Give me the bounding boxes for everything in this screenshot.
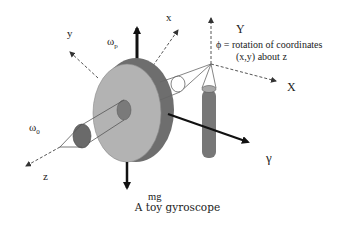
label-z: z: [43, 170, 48, 182]
z-axis: [26, 147, 60, 166]
support-pillar: [202, 86, 216, 159]
label-omega-0: ω0: [29, 121, 40, 136]
x-axis: [150, 30, 178, 70]
gyroscope-diagram: y x ωp ω0 z Y ϕ = rotation of coordinate…: [0, 0, 355, 234]
label-phi-2: (x,y) about z: [236, 51, 287, 63]
label-Y: Y: [236, 22, 245, 36]
label-omega-p: ωp: [107, 35, 118, 50]
figure-caption: A toy gyroscope: [0, 201, 355, 213]
X-axis: [211, 64, 276, 81]
label-X: X: [287, 80, 296, 94]
label-gamma: γ: [265, 150, 272, 165]
left-end-cap: [73, 124, 91, 148]
label-y: y: [67, 27, 73, 39]
label-phi-1: ϕ = rotation of coordinates: [216, 39, 323, 50]
label-x: x: [166, 11, 172, 23]
y-axis: [70, 52, 98, 78]
